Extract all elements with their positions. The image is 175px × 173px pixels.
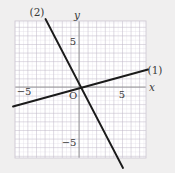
coordinate-plane-svg: y x 5 −5 5 −5 O (1) (2) <box>0 0 175 173</box>
y-axis-label: y <box>73 9 81 21</box>
grid-group <box>15 21 146 158</box>
x-tick-label-positive-5: 5 <box>119 89 125 100</box>
x-tick-label-negative-5: −5 <box>17 86 32 97</box>
line-1-label: (1) <box>148 64 163 76</box>
y-tick-label-negative-5: −5 <box>62 137 77 148</box>
y-tick-label-positive-5: 5 <box>70 36 76 47</box>
origin-label: O <box>69 90 77 101</box>
major-grid <box>15 21 146 158</box>
graph-figure: y x 5 −5 5 −5 O (1) (2) <box>0 0 175 173</box>
line-2-label: (2) <box>30 6 45 18</box>
x-axis-label: x <box>149 81 155 93</box>
